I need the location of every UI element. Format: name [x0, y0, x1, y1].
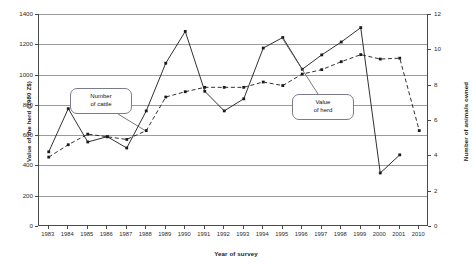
y-axis-right-tick-mark — [428, 14, 431, 15]
x-axis-tick-mark — [399, 226, 400, 229]
data-point-marker — [301, 68, 304, 71]
y-axis-left-tick-mark — [35, 135, 38, 136]
plot-area — [38, 14, 428, 226]
x-axis-tick-mark — [340, 226, 341, 229]
y-axis-left-tick-label: 400 — [7, 161, 33, 168]
y-axis-right-tick-mark — [428, 191, 431, 192]
x-axis-tick-mark — [301, 226, 302, 229]
data-point-marker — [379, 58, 382, 61]
data-point-marker — [47, 150, 50, 153]
data-point-marker — [184, 30, 187, 33]
y-axis-right-tick-mark — [428, 155, 431, 156]
x-axis-tick-mark — [282, 226, 283, 229]
data-point-marker — [359, 53, 362, 56]
y-axis-right-tick-label: 12 — [434, 10, 460, 17]
data-point-marker — [379, 172, 382, 175]
annotation-number-of-cattle: Number of cattle — [70, 88, 132, 114]
data-point-marker — [398, 57, 401, 60]
y-axis-left-tick-mark — [35, 226, 38, 227]
y-axis-right-tick-label: 8 — [434, 81, 460, 88]
y-axis-left-tick-mark — [35, 105, 38, 106]
x-axis-title: Year of survey — [0, 250, 472, 257]
data-point-marker — [418, 129, 421, 132]
data-series-lines — [39, 14, 429, 226]
data-point-marker — [340, 60, 343, 63]
data-point-marker — [320, 53, 323, 56]
data-point-marker — [223, 86, 226, 89]
y-axis-left-tick-label: 800 — [7, 101, 33, 108]
x-axis-tick-mark — [321, 226, 322, 229]
x-axis-tick-label: 2010 — [403, 231, 433, 237]
data-point-marker — [398, 153, 401, 156]
y-axis-right-tick-mark — [428, 85, 431, 86]
data-point-marker — [359, 26, 362, 29]
y-axis-right-tick-label: 6 — [434, 116, 460, 123]
x-axis-tick-mark — [360, 226, 361, 229]
data-point-marker — [320, 68, 323, 71]
x-axis-tick-mark — [48, 226, 49, 229]
x-axis-tick-mark — [184, 226, 185, 229]
y-axis-right-tick-label: 2 — [434, 187, 460, 194]
x-axis-tick-mark — [145, 226, 146, 229]
data-point-marker — [281, 36, 284, 39]
x-axis-tick-mark — [379, 226, 380, 229]
y-axis-left-tick-mark — [35, 165, 38, 166]
x-axis-tick-mark — [262, 226, 263, 229]
data-point-marker — [164, 62, 167, 65]
x-axis-tick-mark — [106, 226, 107, 229]
data-point-marker — [340, 41, 343, 44]
data-point-marker — [184, 90, 187, 93]
y-axis-left-tick-label: 1400 — [7, 10, 33, 17]
y-axis-right-tick-label: 4 — [434, 151, 460, 158]
annotation-value-line1: Value — [297, 98, 349, 106]
data-point-marker — [223, 110, 226, 113]
y-axis-left-tick-mark — [35, 196, 38, 197]
y-axis-left-tick-label: 1000 — [7, 71, 33, 78]
data-point-marker — [203, 90, 206, 93]
y-axis-right-tick-mark — [428, 226, 431, 227]
y-axis-left-tick-label: 600 — [7, 131, 33, 138]
x-axis-tick-mark — [223, 226, 224, 229]
data-point-marker — [106, 135, 109, 138]
data-point-marker — [242, 86, 245, 89]
annotation-value-line2: of herd — [297, 106, 349, 114]
data-point-marker — [86, 141, 89, 144]
y-axis-right-title: Number of animals owned — [462, 42, 469, 202]
data-point-marker — [86, 133, 89, 136]
x-axis-tick-mark — [87, 226, 88, 229]
data-point-marker — [125, 138, 128, 141]
y-axis-left-tick-mark — [35, 75, 38, 76]
data-point-marker — [47, 156, 50, 159]
data-point-marker — [164, 96, 167, 99]
y-axis-right-tick-mark — [428, 49, 431, 50]
y-axis-left-tick-mark — [35, 14, 38, 15]
data-point-marker — [125, 147, 128, 150]
y-axis-right-tick-label: 0 — [434, 222, 460, 229]
data-point-marker — [281, 84, 284, 87]
data-point-marker — [145, 129, 148, 132]
x-axis-tick-mark — [165, 226, 166, 229]
data-point-marker — [145, 110, 148, 113]
y-axis-left-title: Value of the herd (1980 Z$) — [25, 42, 32, 202]
data-point-marker — [301, 73, 304, 76]
data-point-marker — [262, 81, 265, 84]
data-point-marker — [242, 97, 245, 100]
annotation-cattle-line1: Number — [75, 92, 127, 100]
y-axis-left-tick-label: 1200 — [7, 40, 33, 47]
data-point-marker — [203, 86, 206, 89]
annotation-cattle-line2: of cattle — [75, 100, 127, 108]
x-axis-tick-mark — [243, 226, 244, 229]
x-axis-tick-mark — [204, 226, 205, 229]
y-axis-right-tick-mark — [428, 120, 431, 121]
y-axis-left-tick-label: 200 — [7, 192, 33, 199]
annotation-value-of-herd: Value of herd — [292, 94, 354, 120]
y-axis-right-tick-label: 10 — [434, 45, 460, 52]
y-axis-left-tick-label: 0 — [7, 222, 33, 229]
x-axis-tick-mark — [418, 226, 419, 229]
data-point-marker — [262, 47, 265, 50]
chart-container: Value of the herd (1980 Z$) Number of an… — [0, 0, 472, 267]
x-axis-tick-mark — [126, 226, 127, 229]
x-axis-tick-mark — [67, 226, 68, 229]
y-axis-left-tick-mark — [35, 44, 38, 45]
data-point-marker — [67, 143, 70, 146]
